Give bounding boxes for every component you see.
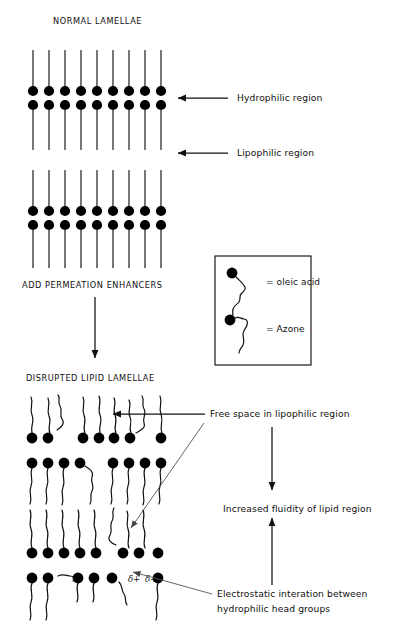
- label-lipophilic-region: Lipophilic region: [237, 147, 314, 158]
- delta-plus-left: δ+: [128, 574, 140, 584]
- label-hydrophilic-region: Hydrophilic region: [237, 92, 323, 103]
- bilayer1-lower-heads: [28, 100, 166, 110]
- bilayer2-lower-heads: [28, 220, 166, 230]
- label-electrostatic-line1: Electrostatic interation between: [217, 588, 368, 599]
- lipid-lamellae-diagram: NORMAL LAMELLAE ADD PERMEATION ENHANCERS…: [0, 0, 409, 632]
- bilayer1-upper-heads: [28, 86, 166, 96]
- label-electrostatic-line2: hydrophilic head groups: [217, 603, 330, 614]
- legend-label-oleic-acid: = oleic acid: [266, 277, 320, 287]
- canvas-background: [0, 0, 409, 632]
- heading-disrupted-lipid-lamellae: DISRUPTED LIPID LAMELLAE: [26, 373, 155, 383]
- normal-bilayer-1: [28, 50, 166, 150]
- legend-label-azone: = Azone: [266, 324, 305, 334]
- heading-normal-lamellae: NORMAL LAMELLAE: [53, 16, 142, 26]
- label-increased-fluidity: Increased fluidity of lipid region: [223, 503, 372, 514]
- label-free-space: Free space in lipophilic region: [210, 408, 350, 419]
- bilayer2-upper-heads: [28, 206, 166, 216]
- heading-add-permeation-enhancers: ADD PERMEATION ENHANCERS: [22, 280, 163, 290]
